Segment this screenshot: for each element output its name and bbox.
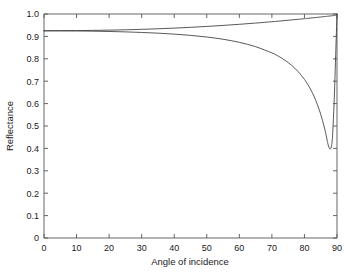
chart-figure: 0102030405060708090 00.10.20.30.40.50.60… [0,0,358,274]
y-tick-label: 1.0 [26,9,39,19]
y-tick-label: 0.9 [26,32,39,42]
x-tick-label: 50 [202,243,212,253]
x-tick-label: 20 [104,243,114,253]
x-tick-label: 10 [72,243,82,253]
y-axis-title: Reflectance [4,101,15,151]
y-tick-label: 0.6 [26,99,39,109]
x-tick-label: 30 [137,243,147,253]
y-tick-label: 0.5 [26,121,39,131]
y-tick-label: 0 [34,233,39,243]
x-axis-title: Angle of incidence [151,256,229,267]
y-tick-label: 0.8 [26,54,39,64]
x-tick-label: 70 [267,243,277,253]
y-tick-label: 0.3 [26,166,39,176]
x-tick-label: 60 [234,243,244,253]
y-tick-label: 0.4 [26,144,39,154]
x-tick-label: 0 [41,243,46,253]
x-tick-labels: 0102030405060708090 [41,243,342,253]
y-tick-label: 0.7 [26,77,39,87]
x-tick-label: 80 [299,243,309,253]
plot-background [44,14,337,238]
y-tick-label: 0.2 [26,189,39,199]
x-tick-label: 90 [332,243,342,253]
x-tick-label: 40 [169,243,179,253]
y-tick-label: 0.1 [26,211,39,221]
reflectance-line-chart: 0102030405060708090 00.10.20.30.40.50.60… [0,0,358,274]
y-tick-labels: 00.10.20.30.40.50.60.70.80.91.0 [26,9,39,243]
